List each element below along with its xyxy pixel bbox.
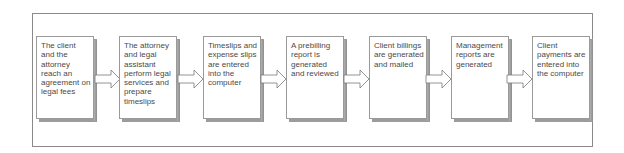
step-box-4: A prebilling report is generated and rev… <box>286 36 344 119</box>
step-label-1: The client and the attorney reach an agr… <box>41 41 91 97</box>
step-box-6: Management reports are generated <box>451 36 509 119</box>
step-box-2: The attorney and legal assistant perform… <box>119 36 177 119</box>
step-label-2: The attorney and legal assistant perform… <box>124 41 174 106</box>
right-arrow-icon <box>177 69 204 89</box>
right-arrow-icon <box>260 69 287 89</box>
right-arrow-icon <box>343 69 370 89</box>
step-box-3: Timeslips and expense slips are entered … <box>203 36 261 119</box>
step-label-5: Client billings are generated and mailed <box>374 41 424 69</box>
right-arrow-icon <box>425 69 452 89</box>
step-label-4: A prebilling report is generated and rev… <box>291 41 341 78</box>
step-label-3: Timeslips and expense slips are entered … <box>208 41 258 87</box>
right-arrow-icon <box>94 69 121 89</box>
step-label-6: Management reports are generated <box>456 41 506 69</box>
step-box-1: The client and the attorney reach an agr… <box>36 36 94 119</box>
step-label-7: Client payments are entered into the com… <box>537 41 587 78</box>
step-box-7: Client payments are entered into the com… <box>532 36 590 119</box>
step-box-5: Client billings are generated and mailed <box>369 36 427 119</box>
right-arrow-icon <box>506 69 533 89</box>
